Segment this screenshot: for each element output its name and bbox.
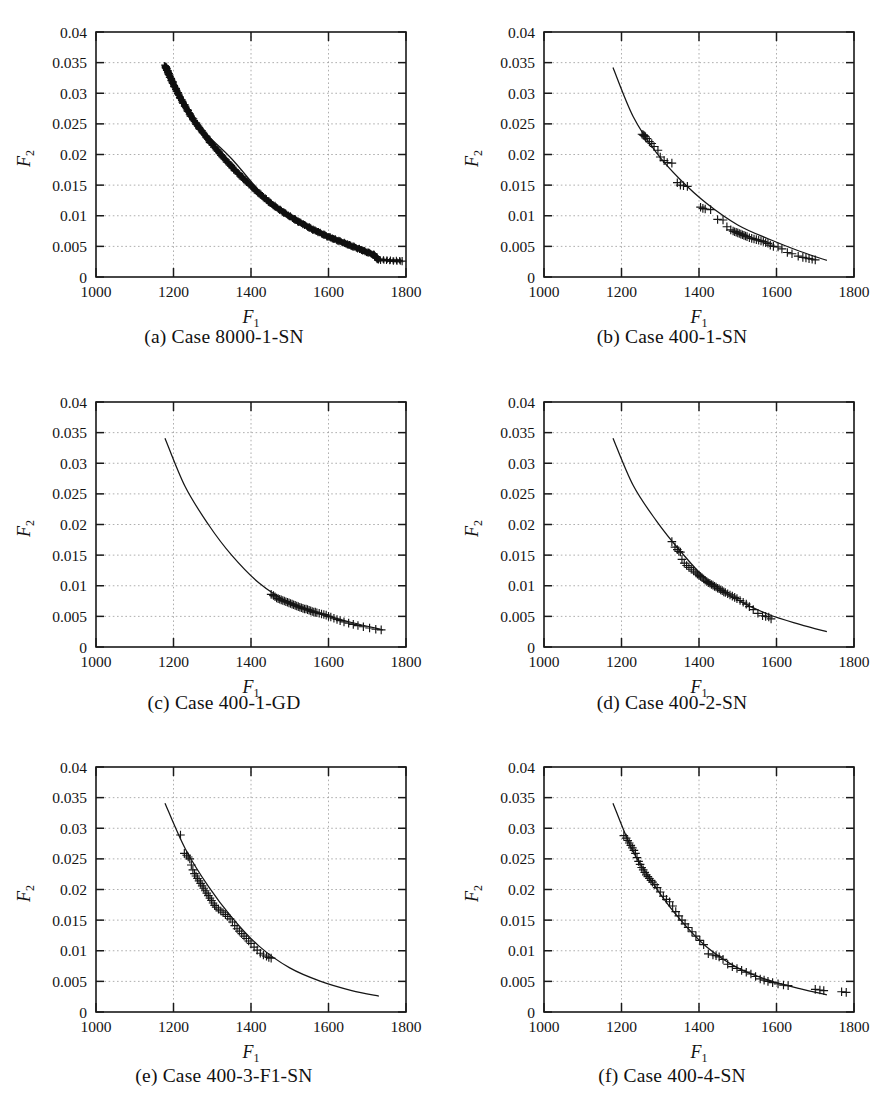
- y-tick-label: 0.035: [500, 789, 535, 806]
- x-tick-label: 1600: [761, 1018, 792, 1035]
- caption-b: (b) Case 400-1-SN: [448, 326, 896, 348]
- fit-curve: [613, 438, 827, 632]
- x-tick-label: 1400: [236, 653, 267, 670]
- x-tick-label: 1000: [81, 1018, 112, 1035]
- chart-svg: 00.0050.010.0150.020.0250.030.0350.04100…: [448, 370, 896, 700]
- x-tick-label: 1200: [606, 283, 637, 300]
- x-tick-label: 1800: [391, 653, 422, 670]
- panel-e: 00.0050.010.0150.020.0250.030.0350.04100…: [0, 735, 448, 1115]
- x-tick-label: 1800: [839, 1018, 870, 1035]
- y-tick-label: 0.01: [508, 942, 535, 959]
- gridlines: [544, 402, 854, 647]
- panel-b: 00.0050.010.0150.020.0250.030.0350.04100…: [448, 0, 896, 370]
- x-tick-label: 1600: [313, 1018, 344, 1035]
- y-tick-label: 0.01: [508, 207, 535, 224]
- y-tick-label: 0.04: [60, 759, 87, 776]
- axis-ticks: 00.0050.010.0150.020.0250.030.0350.04100…: [500, 759, 870, 1036]
- x-tick-label: 1200: [158, 653, 189, 670]
- caption-a: (a) Case 8000-1-SN: [0, 326, 448, 348]
- y-axis-label: F2: [462, 520, 485, 538]
- y-tick-label: 0.005: [500, 973, 535, 990]
- y-tick-label: 0.015: [52, 547, 87, 564]
- x-tick-label: 1800: [391, 283, 422, 300]
- x-tick-label: 1200: [158, 1018, 189, 1035]
- y-tick-label: 0.025: [500, 485, 535, 502]
- y-tick-label: 0.03: [60, 85, 87, 102]
- axis-ticks: 00.0050.010.0150.020.0250.030.0350.04100…: [52, 24, 422, 301]
- y-tick-label: 0.02: [60, 516, 87, 533]
- y-tick-label: 0.025: [500, 850, 535, 867]
- y-tick-label: 0.01: [60, 577, 87, 594]
- x-tick-label: 1400: [236, 1018, 267, 1035]
- y-tick-label: 0.035: [52, 54, 87, 71]
- panel-a: 00.0050.010.0150.020.0250.030.0350.04100…: [0, 0, 448, 370]
- y-tick-label: 0.025: [500, 115, 535, 132]
- y-tick-label: 0.005: [52, 608, 87, 625]
- plot-f: 00.0050.010.0150.020.0250.030.0350.04100…: [448, 735, 896, 1065]
- y-tick-label: 0.04: [508, 394, 535, 411]
- x-tick-label: 1600: [761, 283, 792, 300]
- y-tick-label: 0.02: [508, 146, 535, 163]
- y-tick-label: 0.02: [60, 881, 87, 898]
- scatter-markers: [620, 831, 851, 996]
- caption-f: (f) Case 400-4-SN: [448, 1065, 896, 1087]
- fit-curve: [613, 803, 827, 995]
- caption-e: (e) Case 400-3-F1-SN: [0, 1065, 448, 1087]
- x-axis-label: F1: [242, 1042, 260, 1065]
- y-tick-label: 0.015: [500, 177, 535, 194]
- x-axis-label: F1: [690, 1042, 708, 1065]
- caption-c: (c) Case 400-1-GD: [0, 692, 448, 714]
- x-tick-label: 1800: [391, 1018, 422, 1035]
- caption-d: (d) Case 400-2-SN: [448, 692, 896, 714]
- plot-d: 00.0050.010.0150.020.0250.030.0350.04100…: [448, 370, 896, 700]
- y-tick-label: 0.015: [500, 912, 535, 929]
- y-tick-label: 0.03: [508, 85, 535, 102]
- y-tick-label: 0.01: [508, 577, 535, 594]
- x-tick-label: 1800: [839, 653, 870, 670]
- y-tick-label: 0.025: [52, 485, 87, 502]
- plot-a: 00.0050.010.0150.020.0250.030.0350.04100…: [0, 0, 448, 330]
- gridlines: [544, 767, 854, 1012]
- fit-curve: [165, 66, 378, 260]
- y-tick-label: 0.03: [508, 455, 535, 472]
- y-axis-label: F2: [14, 885, 37, 903]
- gridlines: [96, 32, 406, 277]
- y-tick-label: 0.04: [508, 759, 535, 776]
- x-tick-label: 1600: [313, 653, 344, 670]
- y-axis-label: F2: [462, 885, 485, 903]
- x-tick-label: 1000: [529, 653, 560, 670]
- y-tick-label: 0.005: [52, 973, 87, 990]
- y-axis-label: F2: [462, 150, 485, 168]
- axis-ticks: 00.0050.010.0150.020.0250.030.0350.04100…: [500, 24, 870, 301]
- x-tick-label: 1000: [529, 1018, 560, 1035]
- y-tick-label: 0.04: [60, 394, 87, 411]
- y-tick-label: 0.035: [500, 54, 535, 71]
- y-tick-label: 0.04: [60, 24, 87, 41]
- plot-e: 00.0050.010.0150.020.0250.030.0350.04100…: [0, 735, 448, 1065]
- plot-c: 00.0050.010.0150.020.0250.030.0350.04100…: [0, 370, 448, 700]
- panel-f: 00.0050.010.0150.020.0250.030.0350.04100…: [448, 735, 896, 1115]
- y-tick-label: 0.03: [508, 820, 535, 837]
- x-tick-label: 1600: [761, 653, 792, 670]
- x-tick-label: 1800: [839, 283, 870, 300]
- x-tick-label: 1600: [313, 283, 344, 300]
- gridlines: [96, 402, 406, 647]
- y-tick-label: 0.03: [60, 820, 87, 837]
- y-tick-label: 0.02: [508, 516, 535, 533]
- fit-curve: [165, 803, 379, 996]
- y-tick-label: 0.015: [52, 177, 87, 194]
- y-tick-label: 0.035: [52, 789, 87, 806]
- x-tick-label: 1400: [236, 283, 267, 300]
- y-tick-label: 0.02: [508, 881, 535, 898]
- fit-curve: [613, 68, 827, 261]
- panel-d: 00.0050.010.0150.020.0250.030.0350.04100…: [448, 370, 896, 735]
- y-tick-label: 0.04: [508, 24, 535, 41]
- fit-curve: [165, 438, 383, 630]
- y-tick-label: 0.01: [60, 207, 87, 224]
- x-tick-label: 1400: [684, 1018, 715, 1035]
- x-tick-label: 1400: [684, 283, 715, 300]
- x-tick-label: 1000: [81, 653, 112, 670]
- x-tick-label: 1200: [606, 653, 637, 670]
- y-tick-label: 0.005: [52, 238, 87, 255]
- y-tick-label: 0.005: [500, 608, 535, 625]
